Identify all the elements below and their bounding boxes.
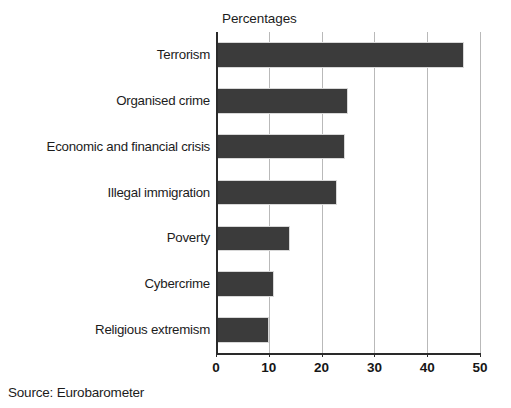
x-tick-label: 50	[472, 360, 487, 376]
x-tick-mark	[322, 353, 323, 357]
bar[interactable]	[216, 88, 348, 114]
x-axis-tick-labels: 01020304050	[216, 357, 480, 379]
category-label: Religious extremism	[0, 322, 210, 337]
bar-band	[216, 307, 480, 353]
bar-band	[216, 215, 480, 261]
x-tick-mark	[427, 353, 428, 357]
plot-area	[216, 32, 480, 353]
bar-series	[216, 32, 480, 353]
chart-title: Percentages	[222, 11, 297, 27]
category-label: Organised crime	[0, 93, 210, 108]
x-tick-label: 40	[420, 360, 435, 376]
x-tick-label: 10	[261, 360, 276, 376]
bar[interactable]	[216, 226, 290, 252]
gridline-50	[480, 32, 481, 353]
category-label: Terrorism	[0, 47, 210, 62]
source-caption: Source: Eurobarometer	[8, 385, 144, 401]
category-label: Economic and financial crisis	[0, 139, 210, 154]
bar-band	[216, 124, 480, 170]
category-axis-labels: TerrorismOrganised crimeEconomic and fin…	[0, 32, 210, 353]
x-tick-mark	[480, 353, 481, 357]
category-label: Poverty	[0, 230, 210, 245]
y-axis-line	[216, 32, 218, 354]
category-label: Cybercrime	[0, 276, 210, 291]
bar[interactable]	[216, 180, 337, 206]
bar[interactable]	[216, 134, 345, 160]
x-tick-mark	[216, 353, 217, 357]
bar[interactable]	[216, 317, 269, 343]
chart-figure: Percentages TerrorismOrganised crimeEcon…	[0, 0, 511, 408]
x-tick-label: 30	[367, 360, 382, 376]
x-tick-mark	[374, 353, 375, 357]
bar-band	[216, 32, 480, 78]
x-tick-label: 0	[212, 360, 220, 376]
x-axis-line	[216, 353, 481, 355]
x-tick-mark	[269, 353, 270, 357]
bar[interactable]	[216, 42, 464, 68]
bar[interactable]	[216, 271, 274, 297]
bar-band	[216, 170, 480, 216]
bar-band	[216, 261, 480, 307]
bar-band	[216, 78, 480, 124]
x-tick-label: 20	[314, 360, 329, 376]
category-label: Illegal immigration	[0, 185, 210, 200]
